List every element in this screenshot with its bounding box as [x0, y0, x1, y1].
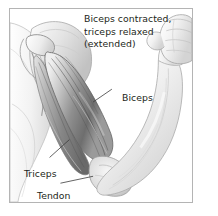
- anatomy-figure: Biceps contracted, triceps relaxed (exte…: [0, 0, 218, 216]
- label-biceps: Biceps: [122, 92, 153, 103]
- figure-caption: Biceps contracted, triceps relaxed (exte…: [84, 13, 193, 51]
- label-triceps: Triceps: [24, 168, 57, 179]
- figure-frame: Biceps contracted, triceps relaxed (exte…: [9, 8, 193, 203]
- label-tendon: Tendon: [37, 190, 71, 201]
- caption-line-1: Biceps contracted,: [84, 13, 193, 26]
- caption-line-3: (extended): [84, 38, 193, 51]
- caption-line-2: triceps relaxed: [84, 26, 193, 39]
